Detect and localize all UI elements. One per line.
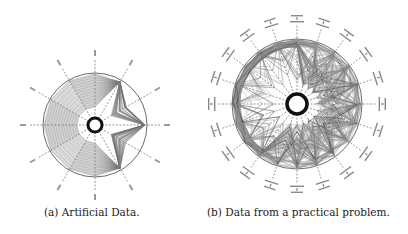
axis-label bbox=[154, 159, 160, 164]
axis-line bbox=[101, 129, 152, 159]
axis-label bbox=[263, 179, 279, 190]
axis-label bbox=[94, 194, 96, 200]
axis-label bbox=[379, 97, 386, 111]
subfigure-b: (b) Data from a practical problem. bbox=[200, 0, 408, 234]
radar-chart-b bbox=[200, 0, 408, 234]
axis-label bbox=[210, 70, 221, 86]
axis-label bbox=[208, 97, 215, 111]
axis-label bbox=[263, 17, 279, 28]
axis-label bbox=[164, 124, 170, 126]
axis-label bbox=[359, 46, 373, 62]
axis-label bbox=[30, 159, 36, 164]
axis-label bbox=[372, 70, 383, 86]
axis-label bbox=[94, 50, 96, 56]
axis-label bbox=[129, 60, 134, 66]
axis-label bbox=[359, 146, 373, 162]
axis-label bbox=[210, 123, 221, 139]
axis-label bbox=[57, 60, 62, 66]
caption-b: (b) Data from a practical problem. bbox=[207, 206, 390, 218]
axis-label bbox=[290, 15, 304, 22]
subfigure-a: (a) Artificial Data. bbox=[0, 0, 200, 234]
hub-ring bbox=[88, 118, 102, 132]
axis-label bbox=[339, 166, 355, 180]
axis-label bbox=[129, 184, 134, 190]
axis-label bbox=[154, 87, 160, 92]
axis-label bbox=[30, 87, 36, 92]
hub-ring bbox=[287, 94, 307, 114]
caption-a: (a) Artificial Data. bbox=[44, 206, 140, 218]
axis-label bbox=[339, 28, 355, 42]
radar-chart-a bbox=[0, 0, 200, 234]
axis-label bbox=[316, 179, 332, 190]
axis-label bbox=[239, 28, 255, 42]
axis-label bbox=[57, 184, 62, 190]
axis-label bbox=[290, 186, 304, 193]
axis-label bbox=[221, 46, 235, 62]
axis-label bbox=[316, 17, 332, 28]
axis-label bbox=[221, 146, 235, 162]
axis-label bbox=[372, 123, 383, 139]
axis-label bbox=[20, 124, 26, 126]
axis-label bbox=[239, 166, 255, 180]
